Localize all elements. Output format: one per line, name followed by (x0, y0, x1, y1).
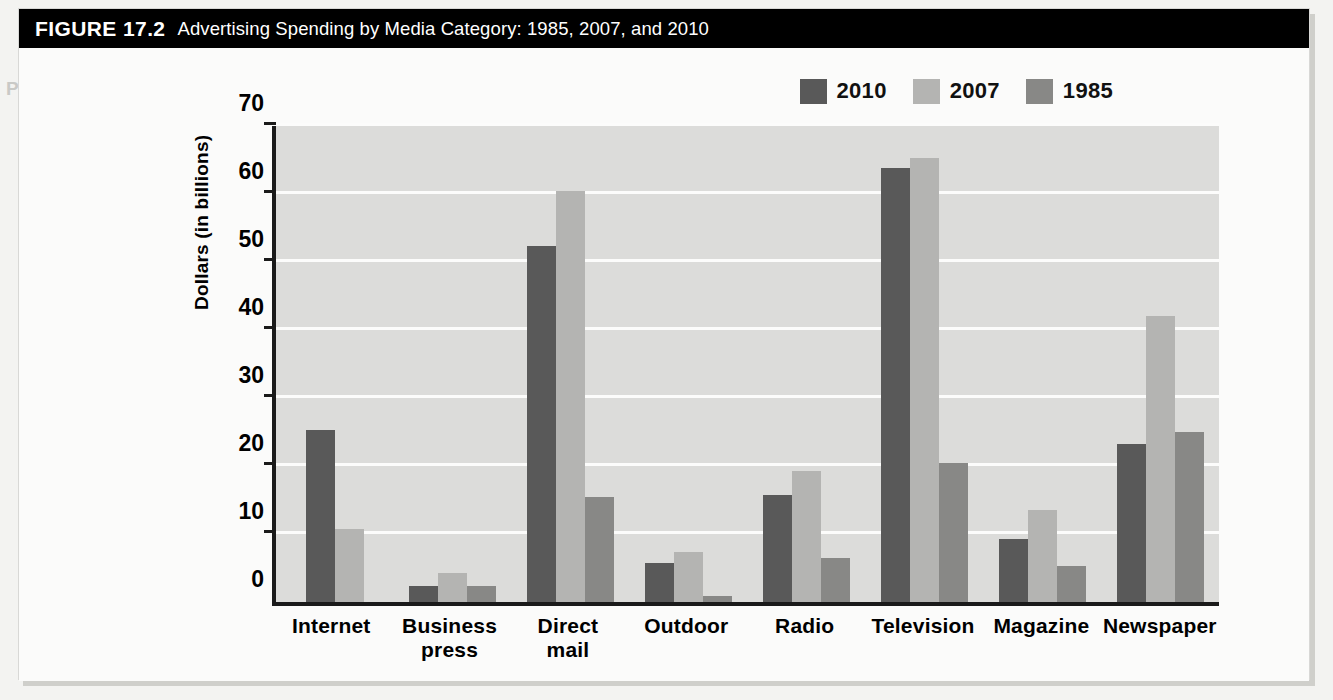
legend-entry-1985[interactable]: 1985 (1026, 78, 1113, 104)
y-axis-title: Dollars (in billions) (191, 135, 213, 310)
bar[interactable] (585, 497, 614, 602)
figure-number: FIGURE 17.2 (35, 17, 165, 41)
chart-legend: 2010 2007 1985 (800, 78, 1113, 104)
y-axis-tick-label: 70 (238, 92, 264, 115)
y-axis-tick-label: 10 (238, 500, 264, 523)
bar[interactable] (438, 573, 467, 602)
y-axis-tick-label: 20 (238, 432, 264, 455)
chart-area: 2010 2007 1985 Dollars (in billions) 010… (19, 48, 1309, 681)
legend-swatch-1985 (1026, 79, 1053, 104)
bar[interactable] (881, 168, 910, 602)
x-axis-label: Directmail (509, 614, 627, 661)
bar[interactable] (763, 495, 792, 602)
bar[interactable] (467, 586, 496, 602)
bar[interactable] (556, 191, 585, 602)
bar[interactable] (1117, 444, 1146, 602)
x-axis-label: Television (864, 614, 982, 661)
bar-group (512, 126, 630, 602)
x-axis-label: Internet (272, 614, 390, 661)
y-axis-tick-label: 50 (238, 228, 264, 251)
x-axis-label: Businesspress (390, 614, 508, 661)
y-axis-tick-mark (264, 190, 276, 193)
bar[interactable] (1057, 566, 1086, 602)
plot-wrapper: 010203040506070 (272, 126, 1219, 606)
bar[interactable] (1146, 316, 1175, 602)
y-axis-tick-mark (264, 530, 276, 533)
legend-label-1985: 1985 (1063, 78, 1113, 104)
legend-swatch-2010 (800, 79, 827, 104)
bar-group (983, 126, 1101, 602)
y-axis-tick-mark (264, 326, 276, 329)
bar-group (865, 126, 983, 602)
bar[interactable] (821, 558, 850, 602)
y-axis-tick-mark (264, 462, 276, 465)
bar-group (394, 126, 512, 602)
figure-container: FIGURE 17.2 Advertising Spending by Medi… (18, 8, 1310, 680)
legend-entry-2010[interactable]: 2010 (800, 78, 887, 104)
bar-group (748, 126, 866, 602)
legend-entry-2007[interactable]: 2007 (913, 78, 1000, 104)
bar[interactable] (306, 430, 335, 602)
bar-group (630, 126, 748, 602)
bar[interactable] (939, 463, 968, 602)
y-axis-tick-mark (264, 122, 276, 125)
y-axis-tick-mark (264, 394, 276, 397)
y-axis-tick-label: 0 (251, 568, 264, 591)
y-axis-tick-mark (264, 258, 276, 261)
bar[interactable] (1175, 432, 1204, 602)
bar[interactable] (674, 552, 703, 602)
bar[interactable] (910, 158, 939, 602)
x-axis-label: Outdoor (627, 614, 745, 661)
page-scan: Percent Change (Millions) Jan. Sep. 2007… (0, 0, 1333, 700)
bar[interactable] (792, 471, 821, 602)
bar[interactable] (645, 563, 674, 602)
x-axis-label: Radio (746, 614, 864, 661)
bar[interactable] (335, 529, 364, 602)
figure-title: Advertising Spending by Media Category: … (177, 18, 709, 40)
legend-label-2007: 2007 (950, 78, 1000, 104)
bar-group (1101, 126, 1219, 602)
x-axis-label: Newspaper (1101, 614, 1219, 661)
y-axis-tick-label: 40 (238, 296, 264, 319)
bar[interactable] (527, 246, 556, 602)
y-axis-tick-label: 30 (238, 364, 264, 387)
bar-group (276, 126, 394, 602)
bar[interactable] (409, 586, 438, 602)
x-axis-labels: InternetBusinesspressDirectmailOutdoorRa… (272, 614, 1219, 661)
bar[interactable] (1028, 510, 1057, 602)
bar-groups (276, 126, 1219, 602)
legend-swatch-2007 (913, 79, 940, 104)
y-axis-tick-label: 60 (238, 160, 264, 183)
x-axis-label: Magazine (982, 614, 1100, 661)
plot-panel: 010203040506070 (272, 126, 1219, 606)
figure-header: FIGURE 17.2 Advertising Spending by Medi… (19, 9, 1309, 48)
bar[interactable] (703, 596, 732, 602)
legend-label-2010: 2010 (837, 78, 887, 104)
bar[interactable] (999, 539, 1028, 602)
